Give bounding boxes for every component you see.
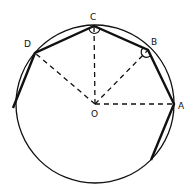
polygon-edges (13, 26, 174, 160)
radius-OD (35, 53, 95, 104)
label-O: O (91, 109, 98, 119)
radius-OB (95, 50, 148, 104)
label-B: B (151, 37, 157, 47)
radius-OC (94, 26, 95, 104)
label-D: D (24, 39, 31, 49)
diagram-canvas: A B C D O (0, 0, 196, 191)
label-A: A (178, 101, 185, 111)
label-C: C (90, 12, 96, 22)
geometry-figure: A B C D O (0, 0, 196, 191)
